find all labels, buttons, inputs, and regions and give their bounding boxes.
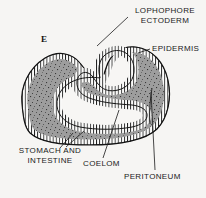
label-lophophore-ectoderm-line2: ECTODERM: [128, 16, 202, 26]
anatomical-figure: E LOPHOPHORE ECTODERM EPIDERMIS STOMACH …: [0, 0, 206, 198]
panel-letter-label: E: [41, 34, 47, 44]
label-stomach-and-intestine: STOMACH AND INTESTINE: [8, 146, 92, 166]
label-stomach-and-intestine-line2: INTESTINE: [8, 156, 92, 166]
body-cross-section: [22, 47, 170, 145]
label-stomach-and-intestine-line1: STOMACH AND: [8, 146, 92, 156]
label-coelom: COELOM: [83, 159, 120, 169]
label-epidermis: EPIDERMIS: [152, 44, 199, 54]
leader-lophophore-ectoderm: [97, 17, 128, 46]
label-lophophore-ectoderm-line1: LOPHOPHORE: [128, 6, 202, 16]
label-peritoneum: PERITONEUM: [124, 172, 181, 182]
label-lophophore-ectoderm: LOPHOPHORE ECTODERM: [128, 6, 202, 26]
